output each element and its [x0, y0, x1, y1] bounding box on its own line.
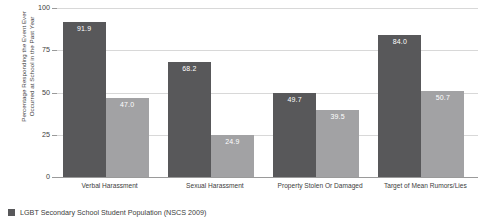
y-tick-label: 100 [22, 4, 50, 12]
bar: 50.7 [421, 91, 464, 177]
gridline [57, 8, 478, 9]
gridline [57, 177, 478, 178]
bar-value-label: 49.7 [273, 96, 316, 103]
x-tick-label: Target of Mean Rumors/Lies [363, 182, 486, 189]
bar-value-label: 91.9 [63, 25, 106, 32]
y-tick-label: 50 [22, 89, 50, 97]
bar: 68.2 [168, 62, 211, 177]
bar: 84.0 [378, 35, 421, 177]
y-tick-label: 0 [22, 173, 50, 181]
bar: 24.9 [211, 135, 254, 177]
bar: 91.9 [63, 22, 106, 177]
bar-value-label: 68.2 [168, 65, 211, 72]
y-tick-label: 75 [22, 46, 50, 54]
legend: LGBT Secondary School Student Population… [8, 208, 206, 217]
bar-value-label: 50.7 [421, 94, 464, 101]
legend-swatch-icon [8, 209, 15, 216]
bar-value-label: 47.0 [106, 101, 149, 108]
bar-value-label: 84.0 [378, 38, 421, 45]
bar: 39.5 [316, 110, 359, 177]
legend-label: LGBT Secondary School Student Population… [20, 208, 206, 217]
bar: 47.0 [106, 98, 149, 177]
y-tick-label: 25 [22, 131, 50, 139]
bar-value-label: 24.9 [211, 138, 254, 145]
bar-chart: Percentage Responding the Event Ever Occ… [0, 0, 486, 222]
plot-area: 91.947.068.224.949.739.584.050.7 [57, 8, 478, 177]
bar: 49.7 [273, 93, 316, 177]
bar-value-label: 39.5 [316, 113, 359, 120]
